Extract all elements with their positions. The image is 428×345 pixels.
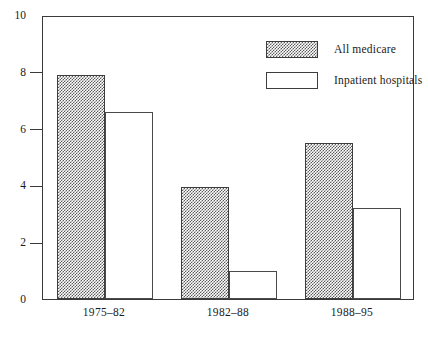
legend-label: Inpatient hospitals xyxy=(334,75,422,87)
x-axis-category-label: 1975–82 xyxy=(42,307,166,319)
y-axis-tick xyxy=(30,243,42,244)
y-axis-tick-label: 6 xyxy=(0,124,26,136)
chart-legend: All medicare Inpatient hospitals xyxy=(266,41,422,103)
legend-swatch-shaded-icon xyxy=(266,41,318,58)
legend-swatch-open-icon xyxy=(266,72,318,89)
bar xyxy=(181,187,229,299)
y-axis-tick-label: 10 xyxy=(0,10,26,22)
x-axis-category-label: 1988–95 xyxy=(290,307,414,319)
bar xyxy=(229,271,277,299)
y-axis-tick-label: 8 xyxy=(0,67,26,79)
y-axis-tick-label: 2 xyxy=(0,237,26,249)
y-axis-tick-label: 4 xyxy=(0,180,26,192)
y-axis-tick-label: 0 xyxy=(0,294,26,306)
bar xyxy=(105,112,153,299)
legend-item-all-medicare: All medicare xyxy=(266,41,422,58)
y-axis-tick xyxy=(30,129,42,130)
bar-chart: 0246810 All medicare Inpatient hospitals… xyxy=(0,0,428,345)
y-axis-tick xyxy=(30,72,42,73)
bar xyxy=(305,143,353,299)
legend-label: All medicare xyxy=(334,44,396,56)
x-axis-category-label: 1982–88 xyxy=(166,307,290,319)
plot-area: All medicare Inpatient hospitals xyxy=(42,16,414,300)
y-axis-tick xyxy=(30,186,42,187)
legend-item-inpatient-hospitals: Inpatient hospitals xyxy=(266,72,422,89)
bar xyxy=(353,208,401,299)
bar xyxy=(57,75,105,299)
